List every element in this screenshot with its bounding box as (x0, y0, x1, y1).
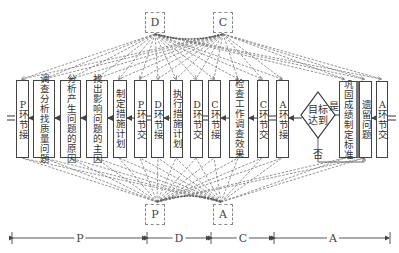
top-connector-c: C (213, 12, 233, 33)
axis-label-d: D (173, 232, 186, 245)
pdca-diagram: D C P A P环节接 调查分析找质量问题 分析产生问题的原因 找出影响问题的… (0, 0, 399, 253)
top-fan-d (22, 34, 381, 79)
step-a-handover-in: A环节接 (276, 80, 289, 158)
line-2: 调查效果 (234, 119, 245, 159)
bottom-connector-p: P (145, 204, 165, 225)
step-find-main-cause: 找出影响问题的主因 (86, 80, 108, 158)
line-2: 制定标准 (343, 120, 354, 160)
step-consolidate-standardize: 巩固成绩制定标准 (339, 81, 359, 158)
top-connector-d: D (145, 12, 165, 33)
no-label: 否 (313, 146, 323, 161)
line-1: 巩固成绩 (343, 80, 354, 120)
line-1: 分析产生 (66, 74, 77, 114)
step-c-handover-in: C环节接 (208, 80, 221, 158)
axis-label-p: P (74, 232, 85, 245)
axis-label-c: C (237, 232, 249, 245)
step-a-handover-out: A环节交 (376, 81, 388, 158)
step-d-handover-out: D环节交 (190, 80, 203, 158)
yes-label: 是 (329, 98, 339, 113)
line-2: 找质量问题 (39, 114, 50, 164)
step-p-handover-out: P环节交 (134, 80, 147, 158)
line-1: 调查分析 (39, 74, 50, 114)
decision-goal-reached: 目标 达到 (304, 104, 332, 126)
line-2: 问题的原因 (66, 114, 77, 164)
step-make-plan: 制定措施计划 (113, 80, 127, 158)
step-investigate-quality-issue: 调查分析找质量问题 (33, 80, 55, 158)
line-2: 问题的主因 (92, 114, 103, 164)
step-p-handover-in: P环节接 (16, 80, 29, 158)
bottom-connector-a: A (213, 204, 233, 225)
line-1: 检查工作 (234, 79, 245, 119)
top-fan-c (22, 34, 381, 79)
step-remaining-issues: 遗留问题 (359, 81, 372, 158)
step-d-handover-in: D环节接 (151, 80, 164, 158)
step-check-results: 检查工作调查效果 (229, 80, 249, 158)
step-execute-plan: 执行措施计划 (170, 80, 183, 158)
line-1: 找出影响 (92, 74, 103, 114)
axis-label-a: A (327, 232, 339, 245)
step-c-handover-out: C环节交 (257, 80, 269, 158)
step-analyze-causes: 分析产生问题的原因 (60, 80, 81, 158)
